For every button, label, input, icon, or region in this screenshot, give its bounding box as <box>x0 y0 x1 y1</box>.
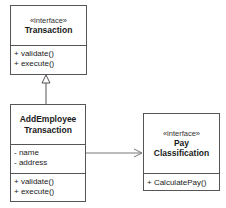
operation: + CalculatePay() <box>147 178 219 188</box>
class-header: «interface» Transaction <box>11 6 86 45</box>
class-name-line1: Pay <box>174 138 189 149</box>
operations-section: + validate() + execute() <box>11 45 86 75</box>
stereotype-label: «interface» <box>163 129 200 138</box>
hollow-triangle-arrowhead-icon <box>42 75 50 83</box>
class-header: «interface» Pay Classification <box>144 114 219 173</box>
operation: + validate() <box>14 49 86 59</box>
stereotype-label: «interface» <box>30 16 67 25</box>
operation: + execute() <box>14 187 85 197</box>
operation: + execute() <box>14 59 86 69</box>
class-name: Transaction <box>25 25 73 36</box>
class-name-line1: AddEmployee <box>20 114 77 125</box>
attribute: - name <box>14 148 85 158</box>
class-name-line2: Transaction <box>24 125 72 136</box>
class-transaction[interactable]: «interface» Transaction + validate() + e… <box>10 5 87 75</box>
class-add-employee-transaction[interactable]: AddEmployee Transaction - name - address… <box>10 104 86 202</box>
class-pay-classification[interactable]: «interface» Pay Classification + Calcula… <box>143 113 220 191</box>
attributes-section: - name - address <box>11 144 85 173</box>
class-header: AddEmployee Transaction <box>11 105 85 144</box>
class-name-line2: Classification <box>154 148 209 159</box>
operation: + validate() <box>14 177 85 187</box>
attribute: - address <box>14 158 85 168</box>
operations-section: + CalculatePay() <box>144 173 219 191</box>
operations-section: + validate() + execute() <box>11 173 85 201</box>
